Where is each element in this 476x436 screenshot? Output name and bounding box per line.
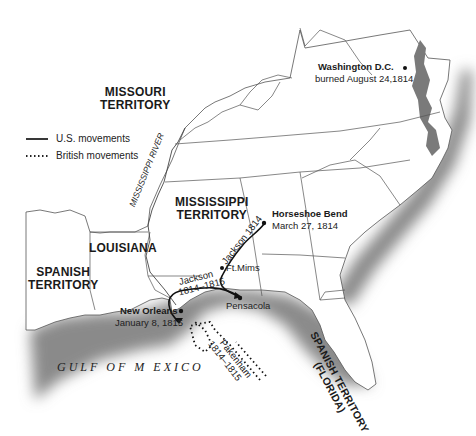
label-line: TERRITORY [100,99,170,112]
legend-british-label: British movements [56,150,138,161]
solid-line-icon [26,136,48,142]
place-name: Washington D.C. [318,62,413,72]
place-name: New Orleans [120,306,183,316]
mississippi-territory-label: MISSISSIPPI TERRITORY [175,196,249,221]
ft-mims-label: Ft.Mims [226,263,260,273]
label-line: TERRITORY [175,209,249,222]
place-name: Horseshoe Bend [272,209,348,219]
label-line: SPANISH [28,266,98,279]
place-note: burned August 24,1814 [315,74,413,84]
label-line: MISSISSIPPI [175,196,249,209]
label-line: MISSOURI [100,86,170,99]
legend-us-label: U.S. movements [56,133,130,144]
map-legend: U.S. movements British movements [26,130,138,164]
new-orleans-label: New Orleans January 8, 1815 [120,306,183,328]
horseshoe-bend-label: Horseshoe Bend March 27, 1814 [272,209,348,231]
spanish-territory-west-label: SPANISH TERRITORY [28,266,98,291]
dotted-line-icon [26,153,48,159]
legend-us: U.S. movements [26,130,138,147]
place-note: January 8, 1815 [115,318,183,328]
legend-british: British movements [26,147,138,164]
gulf-of-mexico-label: GULF OF M EXICO [57,361,204,374]
louisiana-label: LOUISIANA [89,242,157,255]
place-note: March 27, 1814 [272,221,348,231]
missouri-territory-label: MISSOURI TERRITORY [100,86,170,111]
pensacola-label: Pensacola [226,301,270,311]
washington-label: Washington D.C. burned August 24,1814 [318,62,413,84]
label-line: TERRITORY [28,279,98,292]
